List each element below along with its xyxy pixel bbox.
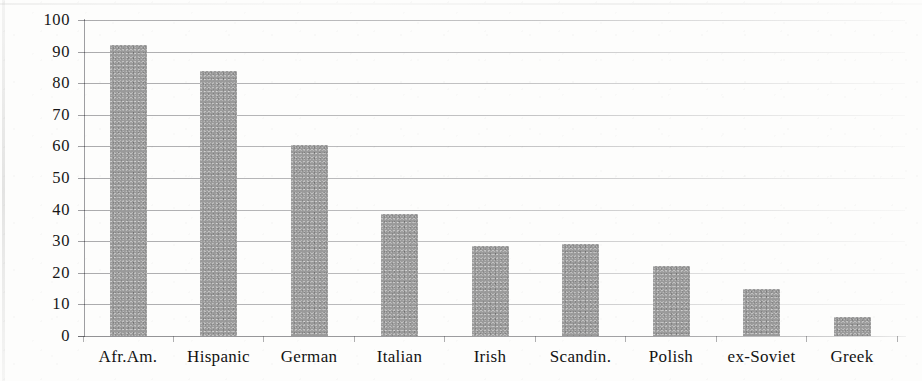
x-axis-tick <box>173 336 174 342</box>
y-axis-tick-label: 80 <box>10 75 70 92</box>
y-axis-tick <box>78 52 85 53</box>
y-axis-tick-label: 0 <box>10 328 70 345</box>
y-axis-tick-label: 90 <box>10 44 70 61</box>
bar <box>472 246 509 336</box>
gridline <box>84 20 905 21</box>
y-axis-tick <box>78 178 85 179</box>
y-axis-tick <box>78 241 85 242</box>
x-axis-tick <box>83 336 84 342</box>
y-axis-tick <box>78 210 85 211</box>
bar <box>653 266 690 336</box>
x-axis-tick <box>263 336 264 342</box>
y-axis-tick <box>78 273 85 274</box>
x-axis-line <box>78 336 906 337</box>
plot-area <box>84 20 905 336</box>
x-axis-tick <box>444 336 445 342</box>
y-axis-tick-label: 50 <box>10 170 70 187</box>
x-axis-tick <box>716 336 717 342</box>
bar <box>743 289 780 336</box>
y-axis-tick <box>78 20 85 21</box>
y-axis-tick <box>78 304 85 305</box>
bar <box>562 244 599 336</box>
x-axis-category-label: Greek <box>782 348 922 367</box>
x-axis-tick <box>625 336 626 342</box>
y-axis-tick-label: 40 <box>10 202 70 219</box>
bar <box>110 45 147 336</box>
y-axis-tick <box>78 115 85 116</box>
y-axis-tick-label: 60 <box>10 138 70 155</box>
bar <box>200 71 237 336</box>
bar <box>834 317 871 336</box>
scan-edge-artifact-left <box>2 0 5 381</box>
y-axis-tick <box>78 83 85 84</box>
bar-chart: 1009080706050403020100 Afr.Am.HispanicGe… <box>0 0 922 381</box>
scan-edge-artifact-top <box>0 3 922 5</box>
y-axis-tick-label: 10 <box>10 296 70 313</box>
y-axis-tick <box>78 336 85 337</box>
x-axis-tick <box>354 336 355 342</box>
bar <box>381 214 418 336</box>
y-axis-tick-label: 70 <box>10 107 70 124</box>
x-axis-tick <box>897 336 898 342</box>
gridline <box>84 52 905 53</box>
x-axis-tick <box>535 336 536 342</box>
y-axis-tick-label: 30 <box>10 233 70 250</box>
y-axis-tick-label: 20 <box>10 265 70 282</box>
y-axis-tick-label: 100 <box>10 12 70 29</box>
bar <box>291 145 328 336</box>
y-axis-tick <box>78 146 85 147</box>
x-axis-tick <box>806 336 807 342</box>
